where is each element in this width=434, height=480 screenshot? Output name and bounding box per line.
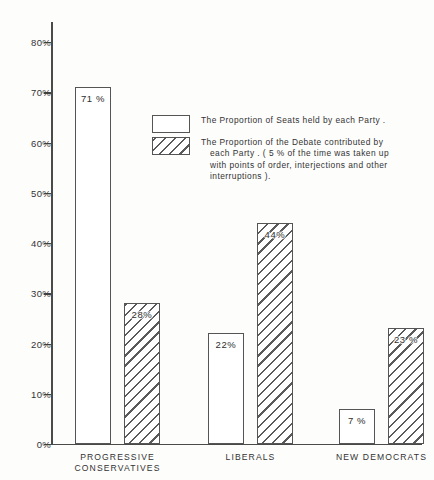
bar-debate-1: 44% <box>257 223 293 444</box>
legend-text-line: interruptions ). <box>201 171 434 183</box>
legend-text-1: The Proportion of the Debate contributed… <box>201 137 434 183</box>
y-tick-label: 60% <box>11 137 51 148</box>
legend-text-line: each Party . ( 5 % of the time was taken… <box>201 148 434 160</box>
bar-debate-2: 23 % <box>388 328 424 444</box>
category-label-line: PROGRESSIVE <box>48 452 188 463</box>
y-tick-label: 70% <box>11 87 51 98</box>
y-tick-label: 80% <box>11 37 51 48</box>
bar-seats-1: 22% <box>208 333 244 444</box>
legend-swatch-hatched <box>152 137 190 155</box>
legend-item-0: The Proportion of Seats held by each Par… <box>152 115 434 127</box>
bar-value-label: 28% <box>125 309 159 320</box>
y-tick-label: 20% <box>11 338 51 349</box>
chart-legend: The Proportion of Seats held by each Par… <box>152 115 434 193</box>
legend-text-line: The Proportion of the Debate contributed… <box>201 137 434 149</box>
y-tick-label: 30% <box>11 288 51 299</box>
y-axis-line <box>51 22 53 445</box>
bar-value-label: 22% <box>209 339 243 350</box>
legend-item-1: The Proportion of the Debate contributed… <box>152 137 434 183</box>
category-label-line: LIBERALS <box>181 452 321 463</box>
y-tick-label: 0% <box>11 439 51 450</box>
y-tick-label: 50% <box>11 187 51 198</box>
y-tick-label: 10% <box>11 388 51 399</box>
y-tick-label: 40% <box>11 238 51 249</box>
bar-value-label: 71 % <box>76 93 110 104</box>
category-label-2: NEW DEMOCRATS <box>312 452 434 463</box>
bar-value-label: 44% <box>258 229 292 240</box>
bar-seats-2: 7 % <box>339 409 375 444</box>
bar-chart: 0%10%20%30%40%50%60%70%80% 71 %28%22%44%… <box>0 0 434 480</box>
category-label-1: LIBERALS <box>181 452 321 463</box>
legend-text-line: The Proportion of Seats held by each Par… <box>201 115 434 127</box>
legend-text-0: The Proportion of Seats held by each Par… <box>201 115 434 127</box>
category-label-line: CONSERVATIVES <box>48 463 188 474</box>
category-label-0: PROGRESSIVECONSERVATIVES <box>48 452 188 473</box>
bar-debate-0: 28% <box>124 303 160 444</box>
bar-seats-0: 71 % <box>75 87 111 444</box>
legend-swatch-solid <box>152 115 190 133</box>
category-label-line: NEW DEMOCRATS <box>312 452 434 463</box>
legend-text-line: with points of order, interjections and … <box>201 160 434 172</box>
bar-value-label: 7 % <box>340 415 374 426</box>
bar-value-label: 23 % <box>389 334 423 345</box>
